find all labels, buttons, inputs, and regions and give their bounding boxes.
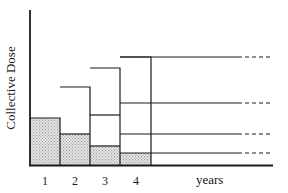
bar-1-shaded (30, 118, 60, 165)
x-tick-3: 3 (102, 175, 108, 187)
x-tick-4: 4 (133, 175, 139, 187)
collective-dose-diagram (0, 0, 288, 193)
x-tick-1: 1 (42, 175, 48, 187)
bar-3-shaded (90, 146, 120, 165)
bar-2-shaded (60, 134, 90, 165)
bar-4-shaded (120, 153, 151, 165)
x-tick-2: 2 (72, 175, 78, 187)
x-axis-label: years (196, 173, 223, 186)
bar-4-outline (120, 57, 151, 165)
y-axis-label: Collective Dose (3, 46, 19, 129)
